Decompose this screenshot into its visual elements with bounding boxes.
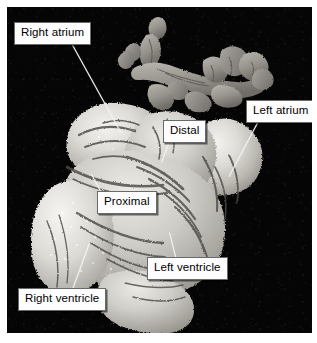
heart-specimen-render <box>7 7 312 333</box>
label-right-ventricle-text: Right ventricle <box>25 292 99 304</box>
label-left-atrium: Left atrium <box>246 100 312 123</box>
label-right-atrium-text: Right atrium <box>21 26 84 38</box>
label-proximal: Proximal <box>97 191 157 214</box>
label-left-atrium-text: Left atrium <box>253 104 308 116</box>
label-right-ventricle: Right ventricle <box>18 288 106 311</box>
label-left-ventricle-text: Left ventricle <box>154 261 221 273</box>
label-proximal-text: Proximal <box>104 195 150 207</box>
specimen-photograph: Right atrium Left atrium Distal Proximal… <box>7 7 312 333</box>
great-vessels <box>118 17 274 112</box>
anatomical-figure: Right atrium Left atrium Distal Proximal… <box>0 0 317 343</box>
label-right-atrium: Right atrium <box>14 22 91 45</box>
label-distal-text: Distal <box>170 124 199 136</box>
label-distal: Distal <box>163 120 206 143</box>
label-left-ventricle: Left ventricle <box>147 257 228 280</box>
